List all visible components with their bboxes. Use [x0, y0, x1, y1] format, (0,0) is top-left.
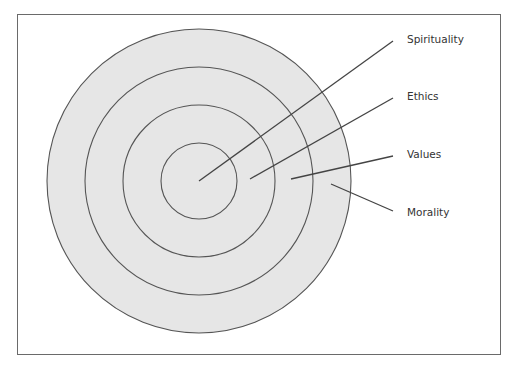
label-ethics: Ethics — [407, 90, 439, 102]
label-spirituality: Spirituality — [407, 33, 464, 45]
concentric-circles-diagram — [0, 0, 517, 369]
label-morality: Morality — [407, 206, 449, 218]
label-values: Values — [407, 148, 441, 160]
